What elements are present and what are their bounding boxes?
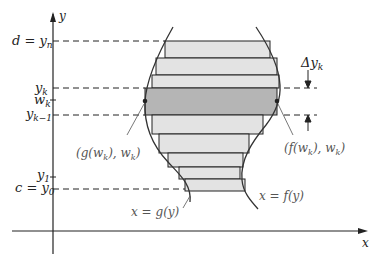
leader-left xyxy=(127,104,144,135)
x-axis-label: x xyxy=(362,236,369,250)
y-axis-label: y xyxy=(58,9,66,23)
area-between-curves-diagram: y x d = yn yk wk yk−1 y1 c = y0 Δyk (g(w… xyxy=(0,0,377,266)
rectangle xyxy=(156,58,277,75)
point-g-wk xyxy=(143,99,148,104)
rectangle xyxy=(152,75,279,88)
riemann-rectangles xyxy=(145,41,279,191)
rectangle xyxy=(168,153,243,167)
label-wk: wk xyxy=(34,92,51,109)
delta-yk-label: Δyk xyxy=(300,55,323,72)
arrow-down-icon xyxy=(305,81,311,88)
label-g-curve: x = g(y) xyxy=(131,205,180,219)
label-f-curve: x = f(y) xyxy=(259,189,304,203)
rectangle xyxy=(152,115,263,134)
rectangle xyxy=(179,167,240,179)
label-d-yn: d = yn xyxy=(12,33,53,50)
delta-arrows xyxy=(305,70,311,131)
leader-g-curve xyxy=(183,196,190,208)
arrow-up-icon xyxy=(305,115,311,122)
point-f-wk xyxy=(275,99,280,104)
label-g-point: (g(wk), wk) xyxy=(76,146,141,162)
leader-right xyxy=(278,104,293,135)
rectangle-n xyxy=(165,41,270,58)
y-axis-arrow-icon xyxy=(50,12,56,22)
label-f-point: (f(wk), wk) xyxy=(284,141,345,157)
rectangle-1 xyxy=(185,179,245,191)
rectangle xyxy=(159,134,249,153)
x-axis-arrow-icon xyxy=(358,228,368,234)
rectangle-k-highlighted xyxy=(145,88,277,115)
